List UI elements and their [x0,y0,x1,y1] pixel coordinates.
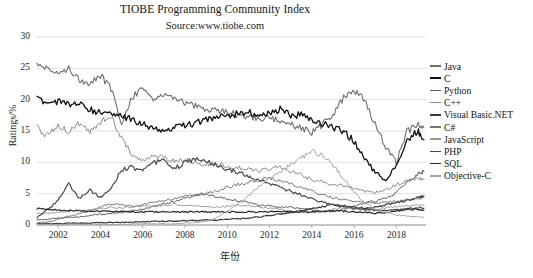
x-tick-label: 2008 [165,230,205,240]
legend-item-python[interactable]: Python [430,84,533,96]
chart-legend: JavaCPythonC++Visual Basic.NETC#JavaScri… [430,60,533,182]
y-tick-label: 10 [8,156,30,166]
figure-caption [0,271,430,278]
gridlines [37,37,426,225]
y-tick-label: 0 [8,219,30,229]
legend-item-label: Python [444,85,471,96]
x-tick-label: 2010 [207,230,247,240]
legend-color-swatch [430,90,441,92]
legend-item-label: C++ [444,97,461,108]
x-axis-title: 年份 [200,248,260,263]
legend-item-label: Objective-C [444,170,491,181]
legend-item-java[interactable]: Java [430,60,533,72]
legend-item-label: C [444,73,450,84]
legend-color-swatch [430,138,441,140]
y-tick-label: 30 [8,31,30,41]
x-tick-label: 2012 [250,230,290,240]
x-tick-label: 2018 [376,230,416,240]
legend-item-c[interactable]: C [430,72,533,84]
y-axis-title: Ratings/% [7,96,18,156]
legend-color-swatch [430,151,441,153]
legend-item-javascript[interactable]: JavaScript [430,133,533,145]
legend-color-swatch [430,77,441,79]
series-lines [37,63,424,224]
legend-item-c[interactable]: C# [430,121,533,133]
legend-color-swatch [430,175,441,177]
legend-item-label: PHP [444,146,462,157]
legend-color-swatch [430,163,441,165]
legend-color-swatch [430,126,441,128]
x-tick-label: 2004 [80,230,120,240]
legend-item-label: Visual Basic.NET [444,109,513,120]
x-tick-label: 2002 [38,230,78,240]
legend-item-visual-basic-net[interactable]: Visual Basic.NET [430,109,533,121]
legend-item-label: C# [444,122,455,133]
y-tick-label: 25 [8,62,30,72]
legend-item-objective-c[interactable]: Objective-C [430,170,533,182]
legend-item-label: SQL [444,158,462,169]
legend-color-swatch [430,114,441,116]
legend-color-swatch [430,65,441,67]
x-tick-label: 2006 [123,230,163,240]
legend-item-php[interactable]: PHP [430,145,533,157]
x-tick-label: 2014 [292,230,332,240]
x-tick-label: 2016 [334,230,374,240]
legend-item-label: JavaScript [444,134,484,145]
legend-item-label: Java [444,61,461,72]
figure-container: TIOBE Programming Community Index Source… [0,0,533,278]
legend-item-c[interactable]: C++ [430,97,533,109]
legend-color-swatch [430,102,441,104]
legend-item-sql[interactable]: SQL [430,158,533,170]
y-tick-label: 5 [8,188,30,198]
